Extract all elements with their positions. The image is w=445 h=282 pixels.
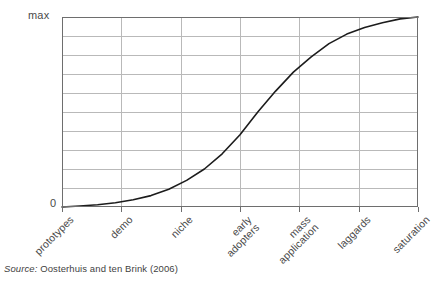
adoption-s-curve-figure: max 0 prototypesdemonicheearlyadoptersma… <box>0 0 445 282</box>
plot-frame <box>62 17 418 207</box>
y-axis-max-label: max <box>28 9 49 21</box>
x-tick-label-line2: application <box>276 222 320 266</box>
source-label: Source: <box>4 263 37 274</box>
source-caption: Source: Oosterhuis and ten Brink (2006) <box>4 263 178 274</box>
x-tick-label-line2: adopters <box>224 222 261 259</box>
y-axis-zero-label: 0 <box>50 197 56 209</box>
x-axis-ticks <box>62 207 418 227</box>
plot-area <box>62 17 418 207</box>
source-reference: Oosterhuis and ten Brink (2006) <box>37 263 178 274</box>
